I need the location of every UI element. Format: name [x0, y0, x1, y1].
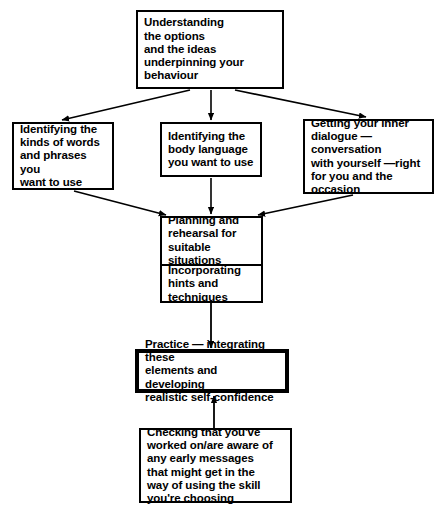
node-checking-early-messages: Checking that you've worked on/are aware… — [139, 428, 292, 503]
connector-inner-dialogue-to-planning — [258, 195, 353, 215]
node-planning-rehearsal: Planning and rehearsal for suitable situ… — [160, 216, 263, 303]
node-understanding: Understanding the options and the ideas … — [136, 10, 284, 89]
connector-understanding-to-words — [62, 90, 190, 120]
node-checking-early-messages-label: Checking that you've worked on/are aware… — [141, 426, 290, 505]
node-identifying-body-language-label: Identifying the body language you want t… — [162, 130, 260, 170]
node-identifying-words-label: Identifying the kinds of words and phras… — [14, 123, 112, 189]
node-planning-section-bottom: Incorporating hints and techniques — [162, 266, 261, 302]
node-practice-label: Practice — integrating these elements an… — [139, 338, 285, 404]
node-understanding-label: Understanding the options and the ideas … — [138, 16, 282, 82]
node-planning-label: Planning and rehearsal for suitable situ… — [162, 214, 261, 267]
node-identifying-words: Identifying the kinds of words and phras… — [12, 122, 114, 190]
node-incorporating-hints-label: Incorporating hints and techniques — [162, 264, 261, 304]
node-inner-dialogue: Getting your inner dialogue — conversati… — [303, 119, 434, 194]
node-practice: Practice — integrating these elements an… — [135, 349, 289, 393]
flowchart-diagram: Understanding the options and the ideas … — [0, 0, 443, 512]
node-inner-dialogue-label: Getting your inner dialogue — conversati… — [305, 117, 432, 196]
connector-words-to-planning — [74, 191, 166, 215]
node-planning-section-top: Planning and rehearsal for suitable situ… — [162, 217, 261, 266]
node-identifying-body-language: Identifying the body language you want t… — [160, 122, 262, 177]
connector-understanding-to-inner-dialogue — [235, 90, 366, 117]
